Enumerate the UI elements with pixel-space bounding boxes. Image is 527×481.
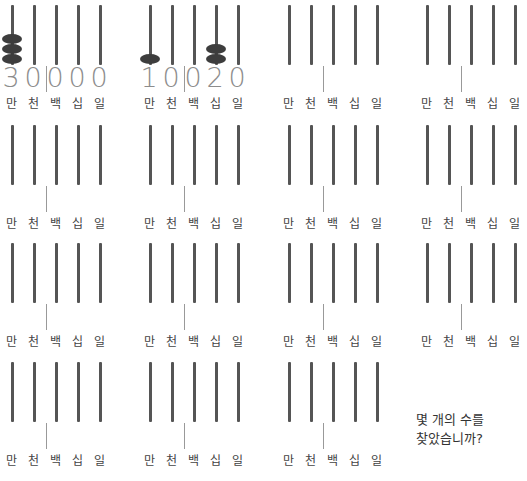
abacus-rod [514, 5, 517, 65]
digit-cell: 3 [0, 63, 22, 93]
place-label: 일 [503, 214, 525, 231]
place-label: 일 [88, 451, 110, 468]
place-label: 만 [0, 94, 22, 111]
abacus-rod [215, 243, 218, 303]
place-label: 일 [365, 214, 387, 231]
abacus-rod [149, 362, 152, 422]
place-label: 십 [481, 214, 503, 231]
place-label: 십 [204, 332, 226, 349]
thousands-separator [323, 186, 324, 212]
abacus-rod [514, 243, 517, 303]
place-label: 십 [343, 332, 365, 349]
thousands-separator [46, 304, 47, 330]
place-label: 십 [343, 451, 365, 468]
thousands-separator [184, 66, 185, 92]
abacus-rod [492, 5, 495, 65]
abacus-rod [171, 125, 174, 185]
place-label: 십 [343, 214, 365, 231]
place-label: 천 [160, 451, 182, 468]
abacus-rod [215, 125, 218, 185]
thousands-separator [323, 66, 324, 92]
abacus-rod [288, 243, 291, 303]
abacus-rod [33, 5, 36, 65]
abacus-rod [448, 125, 451, 185]
abacus-rod [288, 125, 291, 185]
abacus-rod [354, 125, 357, 185]
prompt-line-1: 몇 개의 수를 [416, 410, 484, 429]
abacus: 만천백십일 [277, 0, 392, 115]
place-label: 십 [66, 214, 88, 231]
abacus-rod [470, 243, 473, 303]
abacus-rod [354, 5, 357, 65]
abacus: 3만0천0백0십0일 [0, 0, 115, 115]
abacus-rod [237, 125, 240, 185]
place-label: 천 [160, 214, 182, 231]
abacus-bead[interactable] [2, 44, 22, 54]
place-label: 일 [365, 451, 387, 468]
place-label: 백 [44, 451, 66, 468]
abacus-bead[interactable] [2, 34, 22, 44]
abacus-rod [171, 243, 174, 303]
abacus-rod [77, 125, 80, 185]
abacus-rod [448, 5, 451, 65]
abacus-rod [99, 243, 102, 303]
abacus-rod [426, 125, 429, 185]
abacus: 만천백십일 [415, 238, 527, 353]
digit-cell: 0 [226, 63, 248, 93]
place-label: 일 [503, 332, 525, 349]
place-label: 백 [44, 332, 66, 349]
place-label: 만 [138, 451, 160, 468]
abacus-rod [99, 125, 102, 185]
abacus-rod [237, 243, 240, 303]
place-label: 천 [437, 214, 459, 231]
place-label: 십 [204, 451, 226, 468]
abacus-rod [376, 5, 379, 65]
place-label: 백 [321, 94, 343, 111]
abacus-rod [448, 243, 451, 303]
abacus-bead[interactable] [206, 44, 226, 54]
abacus-rod [332, 5, 335, 65]
abacus: 만천백십일 [138, 238, 253, 353]
abacus-rod [33, 362, 36, 422]
thousands-separator [46, 423, 47, 449]
abacus-rod [11, 362, 14, 422]
digit-cell: 0 [66, 63, 88, 93]
thousands-separator [323, 423, 324, 449]
place-label: 일 [88, 214, 110, 231]
abacus-rod [376, 125, 379, 185]
place-label: 만 [0, 451, 22, 468]
place-label: 일 [365, 94, 387, 111]
abacus-rod [310, 125, 313, 185]
place-label: 천 [299, 94, 321, 111]
question-prompt: 몇 개의 수를 찾았습니까? [416, 410, 484, 448]
abacus-rod [193, 125, 196, 185]
abacus: 만천백십일 [277, 120, 392, 235]
place-label: 만 [0, 214, 22, 231]
abacus: 만천백십일 [0, 120, 115, 235]
place-label: 천 [160, 332, 182, 349]
abacus-rod [470, 5, 473, 65]
place-label: 천 [299, 214, 321, 231]
prompt-line-2: 찾았습니까? [416, 429, 484, 448]
digit-cell: 0 [44, 63, 66, 93]
place-label: 십 [66, 94, 88, 111]
abacus-rod [514, 125, 517, 185]
abacus: 만천백십일 [415, 120, 527, 235]
abacus-rod [310, 5, 313, 65]
thousands-separator [46, 186, 47, 212]
place-label: 일 [226, 332, 248, 349]
abacus-rod [237, 362, 240, 422]
place-label: 만 [138, 332, 160, 349]
abacus: 만천백십일 [277, 357, 392, 472]
place-label: 백 [459, 214, 481, 231]
place-label: 일 [88, 94, 110, 111]
abacus-rod [215, 362, 218, 422]
abacus: 만천백십일 [415, 0, 527, 115]
place-label: 천 [437, 94, 459, 111]
abacus-rod [77, 362, 80, 422]
place-label: 십 [481, 94, 503, 111]
abacus-rod [332, 362, 335, 422]
place-label: 만 [277, 451, 299, 468]
place-label: 만 [415, 214, 437, 231]
abacus-rod [332, 243, 335, 303]
